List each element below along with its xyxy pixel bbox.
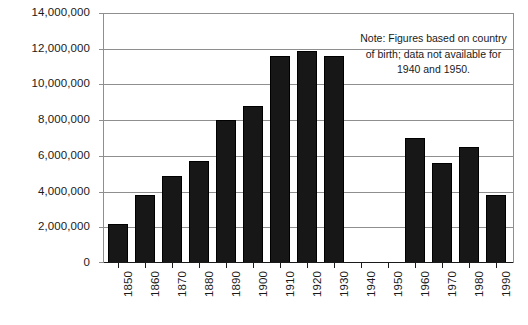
x-axis-label: 1930 xyxy=(339,271,351,297)
bar-1920 xyxy=(297,51,317,264)
bar-1990 xyxy=(486,195,506,263)
bar-1980 xyxy=(459,147,479,263)
x-axis-tick xyxy=(118,263,119,268)
bar-1890 xyxy=(216,120,236,263)
bar-1970 xyxy=(432,163,452,263)
x-axis-tick xyxy=(253,263,254,268)
y-axis-labels: 14,000,000 12,000,000 10,000,000 8,000,0… xyxy=(0,0,96,325)
bar-1880 xyxy=(189,161,209,263)
bar-1930 xyxy=(324,56,344,263)
x-axis-label: 1960 xyxy=(420,271,432,297)
x-axis-tick xyxy=(361,263,362,268)
bar-chart: 14,000,000 12,000,000 10,000,000 8,000,0… xyxy=(0,0,528,325)
x-axis-label: 1990 xyxy=(501,271,513,297)
x-axis-tick xyxy=(334,263,335,268)
x-axis-tick xyxy=(226,263,227,268)
x-axis-tick xyxy=(145,263,146,268)
x-axis-label: 1870 xyxy=(177,271,189,297)
x-axis-tick xyxy=(388,263,389,268)
x-axis-tick xyxy=(307,263,308,268)
note-annotation: Note: Figures based on country of birth;… xyxy=(360,31,507,78)
x-axis-tick xyxy=(469,263,470,268)
bar-1860 xyxy=(135,195,155,263)
bar-1850 xyxy=(108,224,128,263)
x-axis-line xyxy=(104,262,513,263)
x-axis-tick xyxy=(172,263,173,268)
x-axis-label: 1850 xyxy=(123,271,135,297)
x-axis-tick xyxy=(496,263,497,268)
x-axis-label: 1910 xyxy=(285,271,297,297)
x-axis-tick xyxy=(415,263,416,268)
y-axis-label: 10,000,000 xyxy=(31,79,90,91)
x-axis-label: 1890 xyxy=(231,271,243,297)
y-axis-label: 2,000,000 xyxy=(38,222,90,234)
y-axis-label: 12,000,000 xyxy=(31,43,90,55)
y-axis-label: 8,000,000 xyxy=(38,114,90,126)
bar-1910 xyxy=(270,56,290,263)
x-axis-label: 1940 xyxy=(366,271,378,297)
x-axis-label: 1980 xyxy=(474,271,486,297)
x-axis-label: 1900 xyxy=(258,271,270,297)
y-axis-label: 6,000,000 xyxy=(38,150,90,162)
y-axis-label: 0 xyxy=(84,257,91,269)
x-axis-tick xyxy=(199,263,200,268)
x-axis-label: 1880 xyxy=(204,271,216,297)
x-axis-tick xyxy=(280,263,281,268)
bar-1960 xyxy=(405,138,425,263)
x-axis-label: 1950 xyxy=(393,271,405,297)
bar-1900 xyxy=(243,106,263,263)
x-axis-label: 1860 xyxy=(150,271,162,297)
y-axis-label: 4,000,000 xyxy=(38,186,90,198)
x-axis-label: 1970 xyxy=(447,271,459,297)
bar-1870 xyxy=(162,176,182,264)
x-axis-label: 1920 xyxy=(312,271,324,297)
x-axis-tick xyxy=(442,263,443,268)
y-axis-label: 14,000,000 xyxy=(31,7,90,19)
